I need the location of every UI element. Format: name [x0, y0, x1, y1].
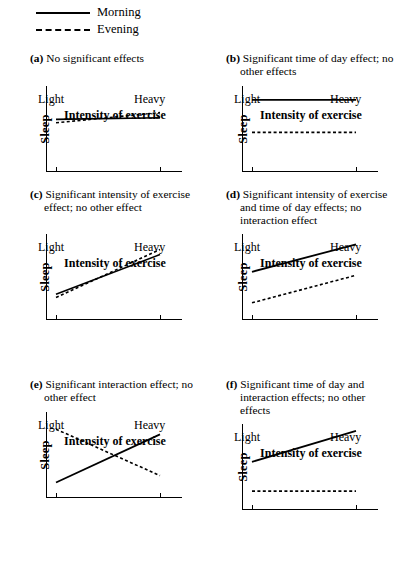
x-axis-label: Intensity of exercise — [236, 256, 386, 271]
x-tick-label-heavy: Heavy — [134, 240, 165, 255]
panel-e-plot: Sleep Light Heavy Intensity of exercise — [46, 412, 174, 498]
x-tick-label-heavy: Heavy — [330, 430, 361, 445]
panel-b-caption-text: Significant time of day effect; no other… — [240, 52, 393, 77]
x-tick-label-heavy: Heavy — [134, 418, 165, 433]
panel-f: (f) Significant time of day and interact… — [198, 378, 396, 556]
chart-legend: Morning Evening — [36, 4, 216, 38]
solid-line-swatch-icon — [36, 8, 90, 18]
panel-f-caption-text: Significant time of day and interaction … — [240, 378, 365, 416]
panel-a-caption-text: No significant effects — [46, 52, 144, 64]
panel-f-plot: Sleep Light Heavy Intensity of exercise — [242, 424, 370, 510]
x-axis-label: Intensity of exercise — [236, 108, 386, 123]
legend-label-evening: Evening — [97, 23, 139, 36]
x-tick-label-heavy: Heavy — [330, 240, 361, 255]
panel-f-caption: (f) Significant time of day and interact… — [226, 378, 394, 418]
panel-c: (c) Significant intensity of exercise ef… — [0, 188, 198, 366]
panel-b-tag: (b) — [226, 52, 240, 64]
legend-item-evening: Evening — [36, 21, 216, 38]
panel-d-plot: Sleep Light Heavy Intensity of exercise — [242, 234, 370, 320]
panel-b-plot: Sleep Light Heavy Intensity of exercise — [242, 86, 370, 172]
panel-c-tag: (c) — [30, 188, 43, 200]
x-tick-label-light: Light — [234, 240, 260, 255]
panel-c-caption-text: Significant intensity of exercise effect… — [44, 188, 190, 213]
x-axis-label: Intensity of exercise — [40, 256, 190, 271]
panel-d-caption: (d) Significant intensity of exercise an… — [226, 188, 394, 228]
panel-e-caption: (e) Significant interaction effect; no o… — [30, 378, 196, 404]
panel-e-tag: (e) — [30, 378, 43, 390]
panel-a-tag: (a) — [30, 52, 43, 64]
x-tick-label-heavy: Heavy — [134, 92, 165, 107]
x-tick-label-light: Light — [234, 430, 260, 445]
x-tick-label-light: Light — [38, 418, 64, 433]
x-tick-label-light: Light — [38, 92, 64, 107]
x-axis-label: Intensity of exercise — [40, 108, 190, 123]
series-evening-line — [252, 275, 356, 303]
panel-a-caption: (a) No significant effects — [30, 52, 196, 65]
x-tick-label-light: Light — [234, 92, 260, 107]
panel-d-caption-text: Significant intensity of exercise and ti… — [240, 188, 387, 226]
legend-label-morning: Morning — [97, 6, 141, 19]
panel-d: (d) Significant intensity of exercise an… — [198, 188, 396, 366]
panel-d-tag: (d) — [226, 188, 240, 200]
panel-e: (e) Significant interaction effect; no o… — [0, 378, 198, 556]
panel-f-tag: (f) — [226, 378, 237, 390]
panel-c-caption: (c) Significant intensity of exercise ef… — [30, 188, 196, 214]
dashed-line-swatch-icon — [36, 25, 90, 35]
x-tick-label-heavy: Heavy — [330, 92, 361, 107]
x-axis-label: Intensity of exercise — [236, 446, 386, 461]
panel-e-caption-text: Significant interaction effect; no other… — [44, 378, 193, 403]
legend-item-morning: Morning — [36, 4, 216, 21]
panel-a-plot: Sleep Light Heavy Intensity of exercise — [46, 86, 174, 172]
x-tick-label-light: Light — [38, 240, 64, 255]
panel-c-plot: Sleep Light Heavy Intensity of exercise — [46, 234, 174, 320]
panel-b-caption: (b) Significant time of day effect; no o… — [226, 52, 394, 78]
x-axis-label: Intensity of exercise — [40, 434, 190, 449]
